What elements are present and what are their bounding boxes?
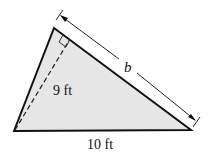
arrowhead-top-icon: [60, 15, 68, 22]
label-base: 10 ft: [87, 137, 113, 152]
triangle: [14, 28, 191, 131]
triangle-diagram: b 9 ft 10 ft: [0, 0, 208, 156]
label-b: b: [124, 59, 132, 75]
label-height: 9 ft: [53, 83, 72, 98]
dimension-tick-top: [56, 10, 63, 20]
